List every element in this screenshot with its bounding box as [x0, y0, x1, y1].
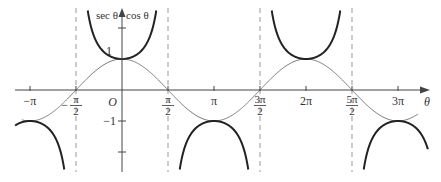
y-axis-label-sec: sec θ	[96, 9, 118, 21]
fraction-denominator: 2	[73, 105, 79, 117]
x-tick-label-fraction: −π2	[61, 93, 82, 117]
sec-curve-branch	[180, 121, 249, 170]
x-tick-label-fraction: 3π2	[254, 93, 266, 117]
x-tick-label: −π	[24, 94, 37, 108]
y-tick-label: 1	[106, 44, 112, 58]
x-tick-label: 2π	[300, 94, 312, 108]
minus-sign: −	[61, 98, 68, 112]
axis-labels: −π−π2π2π3π22π5π23π1−1Oθsec θcos θ	[24, 9, 430, 128]
x-axis-arrow-icon	[420, 87, 430, 94]
sec-curve-branch	[272, 11, 341, 60]
fraction-denominator: 2	[257, 105, 263, 117]
x-tick-label: π	[211, 94, 217, 108]
y-axis-label-cos: cos θ	[126, 9, 149, 21]
x-tick-label: 3π	[392, 94, 404, 108]
x-tick-label-fraction: π2	[162, 93, 174, 117]
fraction-denominator: 2	[349, 105, 355, 117]
x-axis-label: θ	[424, 95, 430, 109]
fraction-numerator: 5π	[346, 93, 358, 105]
y-axis-arrow-icon	[119, 8, 126, 17]
sec-cos-chart: −π−π2π2π3π22π5π23π1−1Oθsec θcos θ	[0, 0, 441, 182]
x-tick-label-fraction: 5π2	[346, 93, 358, 117]
sec-curve-branch	[364, 121, 428, 170]
sec-curve-branch	[15, 121, 64, 170]
fraction-denominator: 2	[165, 105, 171, 117]
origin-label: O	[108, 95, 117, 109]
fraction-numerator: π	[165, 93, 171, 105]
fraction-numerator: π	[73, 93, 79, 105]
fraction-numerator: 3π	[254, 93, 266, 105]
y-tick-label: −1	[103, 114, 116, 128]
